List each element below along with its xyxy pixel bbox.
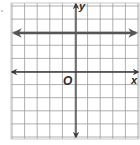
x-axis-label: x: [131, 74, 137, 86]
y-axis-label: y: [79, 0, 85, 12]
origin-label: O: [63, 74, 72, 88]
grid-lines: [11, 3, 139, 139]
coordinate-grid: [0, 0, 140, 145]
